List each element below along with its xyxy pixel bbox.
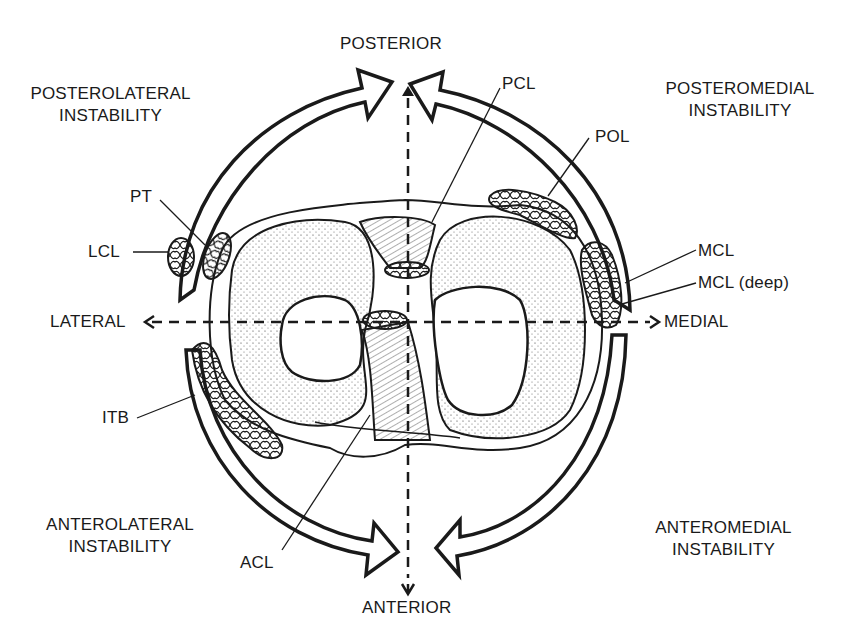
posteromedial-line1: POSTEROMEDIAL bbox=[650, 78, 830, 100]
anterior-arrowhead bbox=[402, 584, 414, 594]
medial-arrowhead bbox=[650, 316, 659, 328]
posterolateral-line1: POSTEROLATERAL bbox=[28, 83, 193, 105]
anterolateral-line1: ANTEROLATERAL bbox=[30, 514, 210, 536]
pcl-label: PCL bbox=[502, 73, 536, 95]
posterolateral-line2: INSTABILITY bbox=[28, 105, 193, 127]
acl-label: ACL bbox=[240, 552, 274, 574]
medial-plateau bbox=[434, 287, 528, 415]
acl-stump bbox=[363, 311, 407, 329]
lateral-plateau bbox=[281, 296, 362, 381]
anterolateral-instability-label: ANTEROLATERAL INSTABILITY bbox=[30, 514, 210, 558]
mcl-deep-label: MCL (deep) bbox=[698, 272, 789, 294]
pt-label: PT bbox=[130, 186, 152, 208]
lcl-structure bbox=[168, 238, 194, 276]
pol-label: POL bbox=[595, 126, 630, 148]
posterior-label: POSTERIOR bbox=[340, 33, 442, 55]
anteromedial-line2: INSTABILITY bbox=[636, 539, 811, 561]
acl-ligament bbox=[362, 322, 430, 440]
medial-label: MEDIAL bbox=[664, 311, 729, 333]
anterior-label: ANTERIOR bbox=[362, 597, 451, 619]
posterolateral-instability-label: POSTEROLATERAL INSTABILITY bbox=[28, 83, 193, 127]
lateral-label: LATERAL bbox=[50, 311, 126, 333]
mcl-label: MCL bbox=[698, 240, 735, 262]
lcl-label: LCL bbox=[88, 241, 120, 263]
anterolateral-line2: INSTABILITY bbox=[30, 536, 210, 558]
posteromedial-line2: INSTABILITY bbox=[650, 100, 830, 122]
itb-label: ITB bbox=[102, 407, 129, 429]
anteromedial-instability-label: ANTEROMEDIAL INSTABILITY bbox=[636, 517, 811, 561]
posteromedial-instability-label: POSTEROMEDIAL INSTABILITY bbox=[650, 78, 830, 122]
anteromedial-line1: ANTEROMEDIAL bbox=[636, 517, 811, 539]
